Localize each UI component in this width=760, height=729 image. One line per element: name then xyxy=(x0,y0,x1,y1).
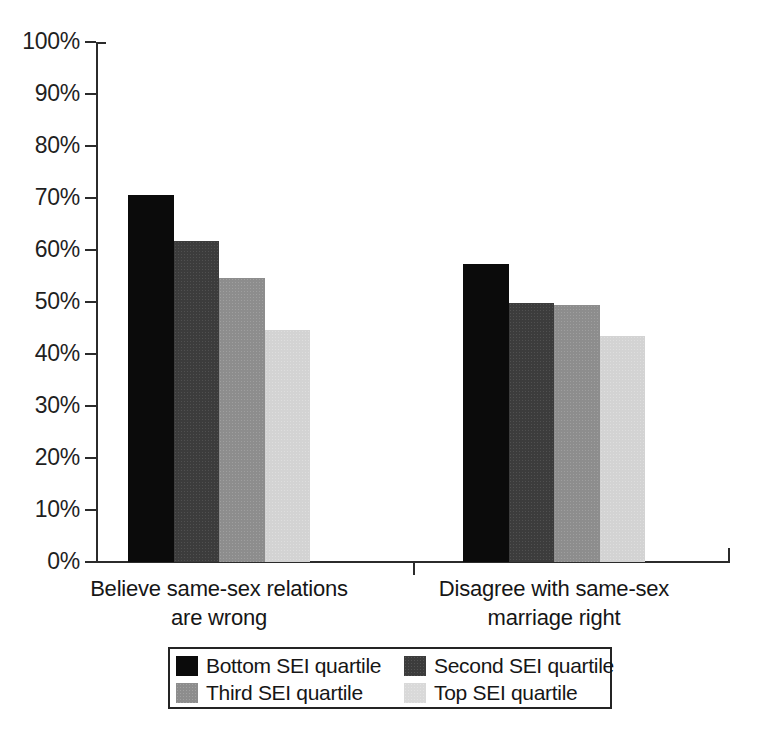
bar xyxy=(463,264,509,562)
legend-swatch-icon xyxy=(176,656,198,676)
legend-swatch-icon xyxy=(176,683,198,703)
y-axis-tick-mark xyxy=(85,405,96,407)
legend-swatch-icon xyxy=(404,683,426,703)
x-axis-right-cap xyxy=(728,548,730,562)
y-axis-tick-mark xyxy=(85,41,96,43)
x-axis-category-label: Believe same-sex relationsare wrong xyxy=(54,574,384,632)
plot-area xyxy=(96,42,728,562)
y-axis-tick-mark xyxy=(85,457,96,459)
legend-item-label: Bottom SEI quartile xyxy=(206,654,381,678)
legend-item: Second SEI quartile xyxy=(404,654,614,678)
y-axis-tick-label: 0% xyxy=(47,547,80,575)
bar xyxy=(174,241,220,562)
y-axis-tick-label: 50% xyxy=(35,287,80,315)
y-axis-tick-label: 20% xyxy=(35,443,80,471)
y-axis-tick-label: 70% xyxy=(35,183,80,211)
bar xyxy=(554,305,600,562)
legend: Bottom SEI quartileSecond SEI quartileTh… xyxy=(168,647,612,709)
y-axis-tick-mark xyxy=(85,301,96,303)
y-axis-tick-label: 60% xyxy=(35,235,80,263)
y-axis-tick-label: 90% xyxy=(35,79,80,107)
y-axis-tick-label: 10% xyxy=(35,495,80,523)
legend-item-label: Third SEI quartile xyxy=(206,681,363,705)
legend-item: Third SEI quartile xyxy=(176,681,404,705)
y-axis-tick-mark xyxy=(85,509,96,511)
y-axis-tick-mark xyxy=(85,197,96,199)
x-axis-category-label-line: Disagree with same-sex xyxy=(389,574,719,603)
y-axis-tick-mark xyxy=(85,93,96,95)
x-axis-category-label-line: Believe same-sex relations xyxy=(54,574,384,603)
legend-item: Top SEI quartile xyxy=(404,681,614,705)
legend-item: Bottom SEI quartile xyxy=(176,654,404,678)
y-axis-tick-mark xyxy=(85,561,96,563)
bar xyxy=(509,303,555,562)
y-axis-tick-label: 100% xyxy=(22,27,80,55)
legend-item-label: Second SEI quartile xyxy=(434,654,614,678)
y-axis-tick-label: 40% xyxy=(35,339,80,367)
bar xyxy=(219,278,265,562)
x-axis-category-label: Disagree with same-sexmarriage right xyxy=(389,574,719,632)
bar xyxy=(265,330,311,562)
y-axis-tick-mark xyxy=(85,249,96,251)
bar xyxy=(600,336,646,562)
y-axis-tick-mark xyxy=(85,353,96,355)
bar-chart: 0%10%20%30%40%50%60%70%80%90%100% Believ… xyxy=(0,0,760,729)
legend-item-label: Top SEI quartile xyxy=(434,681,577,705)
x-axis-category-label-line: marriage right xyxy=(389,603,719,632)
y-axis-tick-label: 80% xyxy=(35,131,80,159)
bar xyxy=(128,195,174,562)
legend-swatch-icon xyxy=(404,656,426,676)
x-axis-category-label-line: are wrong xyxy=(54,603,384,632)
y-axis-tick-label: 30% xyxy=(35,391,80,419)
y-axis-tick-mark xyxy=(85,145,96,147)
